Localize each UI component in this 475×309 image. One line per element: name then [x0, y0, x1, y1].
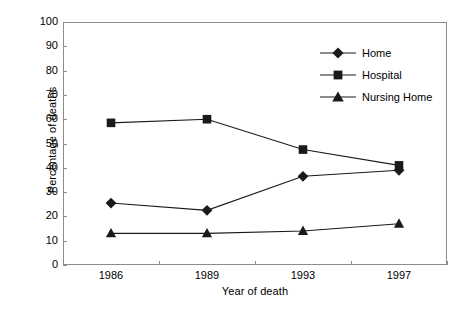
chart-figure: Percentage of deaths 0102030405060708090… [0, 0, 475, 309]
y-axis-tick-mark [63, 46, 67, 47]
y-axis-tick-mark [63, 216, 67, 217]
triangle-marker-icon [318, 89, 358, 105]
y-axis-tick-label: 20 [18, 210, 58, 221]
y-axis-tick-mark [63, 241, 67, 242]
y-axis-tick-mark [63, 95, 67, 96]
legend-item-home: Home [318, 42, 443, 64]
y-axis-tick-label: 0 [18, 259, 58, 270]
y-axis-tick-mark [63, 144, 67, 145]
legend-label: Hospital [358, 69, 402, 81]
y-axis-tick-label: 80 [18, 65, 58, 76]
legend: Home Hospital Nursing Home [318, 42, 443, 108]
x-axis-tick-label: 1986 [71, 269, 151, 281]
x-axis-tick-mark [447, 261, 448, 265]
y-axis-tick-mark [63, 119, 67, 120]
x-axis-tick-label: 1989 [167, 269, 247, 281]
y-axis-tick-mark [63, 22, 67, 23]
legend-item-nursing-home: Nursing Home [318, 86, 443, 108]
y-axis-tick-label: 50 [18, 138, 58, 149]
y-axis-tick-mark [63, 192, 67, 193]
x-axis-tick-label: 1997 [359, 269, 439, 281]
y-axis-tick-label: 70 [18, 89, 58, 100]
y-axis-tick-label: 30 [18, 186, 58, 197]
legend-label: Home [358, 47, 391, 59]
diamond-marker-icon [318, 45, 358, 61]
y-axis-tick-label: 10 [18, 235, 58, 246]
x-axis-tick-label: 1993 [263, 269, 343, 281]
square-marker-icon [318, 67, 358, 83]
x-axis-tick-mark [255, 261, 256, 265]
y-axis-tick-label: 60 [18, 113, 58, 124]
y-axis-tick-mark [63, 265, 67, 266]
y-axis-tick-label: 100 [18, 16, 58, 27]
y-axis-tick-mark [63, 168, 67, 169]
y-axis-tick-label: 40 [18, 162, 58, 173]
legend-item-hospital: Hospital [318, 64, 443, 86]
x-axis-title: Year of death [63, 285, 447, 297]
x-axis-tick-mark [63, 261, 64, 265]
x-axis-tick-mark [159, 261, 160, 265]
y-axis-tick-label: 90 [18, 40, 58, 51]
legend-label: Nursing Home [358, 91, 432, 103]
x-axis-tick-mark [351, 261, 352, 265]
y-axis-tick-mark [63, 71, 67, 72]
